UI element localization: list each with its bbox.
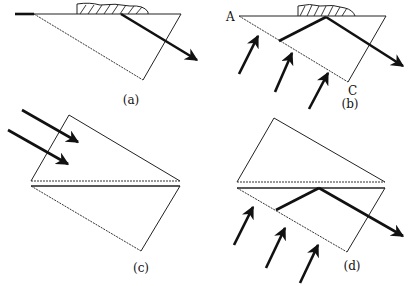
panel-a: (a)	[15, 3, 197, 107]
upper-prism-left-edge	[237, 118, 274, 182]
panel-c: (c)	[8, 110, 180, 275]
incident-ray	[276, 188, 319, 210]
hatched-sample	[298, 5, 355, 17]
reflected-ray-arrow	[326, 17, 403, 66]
panel-label-b: (b)	[341, 97, 358, 111]
prism-hypotenuse	[239, 16, 348, 82]
panel-label-c: (c)	[133, 261, 149, 275]
prism-hypotenuse	[34, 14, 143, 80]
upper-prism-right-edge	[69, 115, 180, 181]
vertex-label-a: A	[225, 10, 235, 24]
incoming-light-arrow	[234, 207, 253, 245]
upper-prism-right-edge	[274, 118, 385, 182]
incoming-light-arrow	[309, 73, 328, 109]
incident-ray	[279, 17, 326, 41]
incoming-light-arrow	[300, 245, 318, 283]
lower-prism-right-edge	[141, 186, 180, 251]
incoming-light-arrow	[266, 228, 285, 268]
hatched-sample	[77, 3, 148, 14]
incoming-light-arrow	[8, 130, 68, 164]
incoming-light-arrow	[275, 53, 292, 92]
panel-d: (d)	[234, 118, 403, 283]
lower-prism-right-edge	[347, 188, 385, 252]
incoming-light-arrow	[239, 36, 258, 74]
panel-b: A C (b)	[225, 5, 403, 112]
lower-prism-hypotenuse	[237, 188, 347, 252]
prism-right-edge	[348, 16, 386, 82]
panel-label-d: (d)	[343, 259, 360, 273]
panel-label-a: (a)	[123, 93, 140, 107]
lower-prism-hypotenuse	[31, 186, 141, 251]
vertex-label-c: C	[348, 84, 357, 98]
